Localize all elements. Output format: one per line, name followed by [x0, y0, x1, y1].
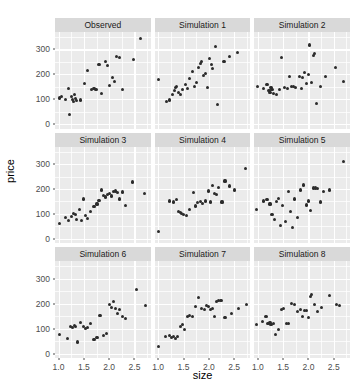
data-point [210, 63, 213, 66]
data-point [139, 37, 142, 40]
data-point [70, 215, 73, 218]
gridline-minor-vertical [271, 147, 272, 244]
data-point [94, 88, 97, 91]
gridline-minor-vertical [247, 261, 248, 358]
data-point [328, 294, 331, 297]
data-point [305, 82, 308, 85]
data-point [272, 322, 275, 325]
gridline-major-horizontal [155, 279, 251, 280]
data-point [176, 335, 179, 338]
y-axis-tick-label: 300 [16, 274, 50, 284]
data-point [236, 51, 239, 54]
gridline-major-vertical [334, 261, 335, 358]
gridline-minor-vertical [321, 32, 322, 129]
data-point [168, 199, 171, 202]
plot-panel [55, 32, 151, 129]
gridline-minor-vertical [247, 32, 248, 129]
gridline-minor-horizontal [155, 152, 251, 153]
y-axis-tick-label: 100 [16, 324, 50, 334]
gridline-minor-horizontal [155, 266, 251, 267]
data-point [131, 180, 134, 183]
data-point [319, 85, 322, 88]
gridline-major-horizontal [254, 164, 350, 165]
gridline-minor-vertical [196, 147, 197, 244]
y-axis-tick-label: 300 [16, 159, 50, 169]
data-point [310, 293, 313, 296]
data-point [294, 86, 297, 89]
facet-strip-label: Simulation 7 [155, 247, 251, 261]
data-point [97, 199, 100, 202]
gridline-minor-horizontal [55, 341, 151, 342]
gridline-minor-vertical [271, 32, 272, 129]
data-point [223, 316, 226, 319]
data-point [291, 226, 294, 229]
data-point [301, 315, 304, 318]
data-point [108, 84, 111, 87]
gridline-major-vertical [134, 32, 135, 129]
data-point [116, 191, 119, 194]
data-point [143, 192, 146, 195]
data-point [183, 328, 186, 331]
gridline-major-vertical [234, 147, 235, 244]
data-point [308, 43, 311, 46]
gridline-minor-horizontal [55, 266, 151, 267]
facet-strip-label: Simulation 8 [254, 247, 350, 261]
data-point [100, 188, 103, 191]
data-point [277, 197, 280, 200]
gridline-major-vertical [158, 147, 159, 244]
gridline-minor-vertical [71, 32, 72, 129]
plot-panel [254, 147, 350, 244]
data-point [316, 310, 319, 313]
facet-panel: Simulation 6 [55, 247, 151, 358]
gridline-minor-vertical [147, 32, 148, 129]
y-axis-tick-label: 200 [16, 184, 50, 194]
data-point [75, 99, 78, 102]
data-point [118, 308, 121, 311]
gridline-major-horizontal [155, 304, 251, 305]
gridline-minor-horizontal [254, 266, 350, 267]
data-point [185, 214, 188, 217]
gridline-major-vertical [84, 261, 85, 358]
data-point [310, 81, 313, 84]
gridline-major-vertical [84, 147, 85, 244]
gridline-major-horizontal [254, 214, 350, 215]
y-axis-tick-label: 0 [16, 119, 50, 129]
data-point [191, 315, 194, 318]
data-point [110, 194, 113, 197]
gridline-minor-vertical [247, 147, 248, 244]
data-point [302, 183, 305, 186]
data-point [173, 89, 176, 92]
plot-panel [254, 261, 350, 358]
data-point [95, 202, 98, 205]
data-point [112, 300, 115, 303]
gridline-major-vertical [234, 32, 235, 129]
data-point [282, 307, 285, 310]
facet-panel: Simulation 5 [254, 133, 350, 244]
data-point [213, 315, 216, 318]
gridline-major-horizontal [55, 49, 151, 50]
data-point [157, 345, 160, 348]
data-point [106, 64, 109, 67]
data-point [215, 193, 218, 196]
gridline-minor-horizontal [155, 112, 251, 113]
data-point [287, 322, 290, 325]
x-axis-tick-mark [257, 358, 258, 361]
data-point [270, 213, 273, 216]
gridline-major-vertical [109, 32, 110, 129]
data-point [319, 200, 322, 203]
gridline-major-horizontal [155, 124, 251, 125]
data-point [275, 93, 278, 96]
gridline-major-horizontal [55, 304, 151, 305]
x-axis-tick-mark [183, 358, 184, 361]
data-point [315, 102, 318, 105]
data-point [214, 45, 217, 48]
data-point [220, 200, 223, 203]
facet-strip-label: Simulation 3 [55, 133, 151, 147]
data-point [265, 83, 268, 86]
plot-panel [155, 147, 251, 244]
gridline-minor-horizontal [254, 112, 350, 113]
data-point [223, 179, 226, 182]
x-axis-tick-mark [234, 358, 235, 361]
data-point [303, 71, 306, 74]
facet-panel: Simulation 7 [155, 247, 251, 358]
